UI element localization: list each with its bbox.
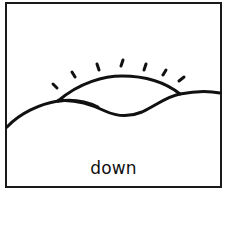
caption-label: down [0,158,227,178]
sun-icon [58,76,180,101]
hill-front-icon [7,92,220,127]
